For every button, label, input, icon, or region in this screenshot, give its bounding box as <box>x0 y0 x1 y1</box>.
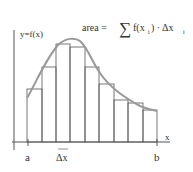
area-formula: area = ∑ f(x i ) · Δx i <box>82 19 185 38</box>
bar-7 <box>114 100 128 142</box>
a-label: a <box>25 151 30 163</box>
sigma-symbol: ∑ <box>119 19 131 38</box>
bar-9 <box>143 110 157 142</box>
bar-2 <box>42 67 56 142</box>
bar-5 <box>85 67 99 142</box>
bar-8 <box>128 103 143 142</box>
x-axis-label: x <box>165 132 170 142</box>
riemann-sum-diagram: y=f(x) x a b Δx area = ∑ f(x i ) · Δx i <box>0 0 193 172</box>
b-label: b <box>154 151 160 163</box>
formula-sub-2: i <box>183 29 185 35</box>
bar-6 <box>99 84 114 142</box>
bar-1 <box>27 89 42 142</box>
function-curve <box>27 39 157 111</box>
formula-prefix: area = <box>82 22 107 33</box>
y-axis-label: y=f(x) <box>20 29 43 39</box>
bar-4 <box>70 47 85 142</box>
delta-x-label: Δx <box>56 152 67 163</box>
formula-mid: ) · Δx <box>151 22 174 34</box>
formula-sub-1: i <box>148 29 150 35</box>
bar-3 <box>56 44 70 142</box>
formula-term: f(x <box>133 22 145 34</box>
